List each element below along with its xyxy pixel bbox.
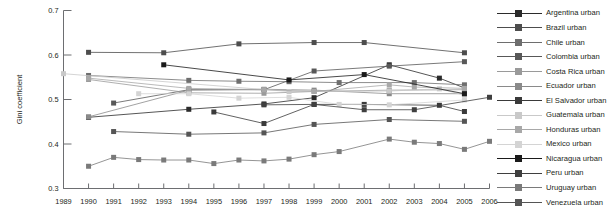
x-tick-label: 1993 bbox=[156, 197, 172, 206]
legend-label: Uruguay urban bbox=[542, 184, 596, 192]
data-point-marker bbox=[487, 139, 492, 144]
y-tick-label: 0.3 bbox=[48, 184, 58, 193]
y-axis-title-group: Gini coefficient bbox=[15, 74, 24, 125]
legend-label: Mexico urban bbox=[542, 140, 592, 148]
series-argentina-urban bbox=[86, 62, 467, 120]
legend-item-ecuador-urban[interactable]: Ecuador urban bbox=[497, 79, 615, 94]
legend-square bbox=[515, 97, 522, 104]
chart-legend: Argentina urbanBrazil urbanChile urbanCo… bbox=[497, 6, 615, 214]
data-point-marker bbox=[186, 91, 191, 96]
data-point-marker bbox=[312, 122, 317, 127]
legend-item-argentina-urban[interactable]: Argentina urban bbox=[497, 6, 615, 21]
x-tick-label: 1997 bbox=[256, 197, 272, 206]
legend-item-brazil-urban[interactable]: Brazil urban bbox=[497, 21, 615, 36]
data-point-marker bbox=[111, 101, 116, 106]
x-tick-label: 2001 bbox=[356, 197, 372, 206]
legend-marker-icon bbox=[497, 22, 542, 34]
y-tick-label: 0.7 bbox=[48, 6, 58, 15]
data-point-marker bbox=[261, 130, 266, 135]
data-point-marker bbox=[437, 76, 442, 81]
data-point-marker bbox=[86, 50, 91, 55]
legend-label: Chile urban bbox=[542, 39, 585, 47]
x-tick-label: 2006 bbox=[481, 197, 497, 206]
series-venezuela-urban bbox=[111, 117, 467, 137]
data-point-marker bbox=[437, 141, 442, 146]
data-point-marker bbox=[236, 79, 241, 84]
data-point-marker bbox=[86, 114, 91, 119]
legend-square bbox=[515, 199, 522, 206]
data-point-marker bbox=[161, 62, 166, 67]
data-point-marker bbox=[186, 78, 191, 83]
legend-label: Ecuador urban bbox=[542, 82, 596, 90]
data-point-marker bbox=[111, 129, 116, 134]
data-point-marker bbox=[312, 89, 317, 94]
legend-item-guatemala-urban[interactable]: Guatemala urban bbox=[497, 108, 615, 123]
data-point-marker bbox=[387, 137, 392, 142]
legend-label: Peru urban bbox=[542, 169, 584, 177]
legend-item-nicaragua-urban[interactable]: Nicaragua urban bbox=[497, 151, 615, 166]
legend-marker-icon bbox=[497, 124, 542, 136]
y-tick-label: 0.5 bbox=[48, 95, 58, 104]
x-tick-group: 1989199019911992199319941995199619971998… bbox=[55, 184, 497, 206]
y-tick-group: 0.30.40.50.60.7 bbox=[48, 6, 71, 193]
legend-square bbox=[515, 39, 522, 46]
legend-item-chile-urban[interactable]: Chile urban bbox=[497, 35, 615, 50]
y-axis-title: Gini coefficient bbox=[15, 74, 24, 125]
x-tick-label: 1998 bbox=[281, 197, 297, 206]
data-point-marker bbox=[387, 82, 392, 87]
legend-square bbox=[515, 155, 522, 162]
data-point-marker bbox=[186, 107, 191, 112]
legend-marker-icon bbox=[497, 109, 542, 121]
data-point-marker bbox=[211, 109, 216, 114]
x-tick-label: 1994 bbox=[181, 197, 197, 206]
x-tick-label: 1991 bbox=[105, 197, 121, 206]
data-point-marker bbox=[462, 147, 467, 152]
x-tick-label: 2002 bbox=[381, 197, 397, 206]
data-point-marker bbox=[462, 91, 467, 96]
series-uruguay-urban bbox=[86, 137, 492, 169]
data-point-marker bbox=[337, 149, 342, 154]
data-point-marker bbox=[462, 119, 467, 124]
y-tick-label: 0.6 bbox=[48, 51, 58, 60]
legend-item-peru-urban[interactable]: Peru urban bbox=[497, 166, 615, 181]
legend-item-el-salvador-urban[interactable]: El Salvador urban bbox=[497, 93, 615, 108]
data-point-marker bbox=[136, 91, 141, 96]
data-point-marker bbox=[261, 121, 266, 126]
legend-marker-icon bbox=[497, 153, 542, 165]
data-point-marker bbox=[287, 89, 292, 94]
x-tick-label: 2005 bbox=[456, 197, 472, 206]
series-line bbox=[114, 120, 465, 135]
x-tick-label: 1996 bbox=[231, 197, 247, 206]
data-point-marker bbox=[236, 158, 241, 163]
data-point-marker bbox=[261, 158, 266, 163]
legend-item-uruguay-urban[interactable]: Uruguay urban bbox=[497, 181, 615, 196]
data-point-marker bbox=[462, 86, 467, 91]
data-point-marker bbox=[261, 87, 266, 92]
data-point-marker bbox=[186, 158, 191, 163]
legend-square bbox=[515, 141, 522, 148]
data-point-marker bbox=[111, 155, 116, 160]
x-tick-label: 2004 bbox=[431, 197, 447, 206]
legend-item-mexico-urban[interactable]: Mexico urban bbox=[497, 137, 615, 152]
data-point-marker bbox=[287, 157, 292, 162]
x-tick-label: 1990 bbox=[80, 197, 96, 206]
data-point-marker bbox=[412, 85, 417, 90]
data-point-marker bbox=[462, 59, 467, 64]
legend-square bbox=[515, 170, 522, 177]
legend-item-costa-rica-urban[interactable]: Costa Rica urban bbox=[497, 64, 615, 79]
data-point-marker bbox=[161, 50, 166, 55]
legend-item-honduras-urban[interactable]: Honduras urban bbox=[497, 122, 615, 137]
legend-square bbox=[515, 126, 522, 133]
data-point-marker bbox=[387, 102, 392, 107]
legend-label: Venezuela urban bbox=[542, 199, 603, 207]
legend-item-colombia-urban[interactable]: Colombia urban bbox=[497, 50, 615, 65]
x-tick-label: 1989 bbox=[55, 197, 71, 206]
line-chart-svg: 0.30.40.50.60.7 198919901991199219931994… bbox=[0, 0, 500, 217]
legend-item-venezuela-urban[interactable]: Venezuela urban bbox=[497, 195, 615, 210]
x-tick-label: 2003 bbox=[406, 197, 422, 206]
data-point-marker bbox=[186, 86, 191, 91]
data-point-marker bbox=[236, 41, 241, 46]
legend-marker-icon bbox=[497, 138, 542, 150]
data-point-marker bbox=[287, 77, 292, 82]
legend-label: Guatemala urban bbox=[542, 111, 605, 119]
